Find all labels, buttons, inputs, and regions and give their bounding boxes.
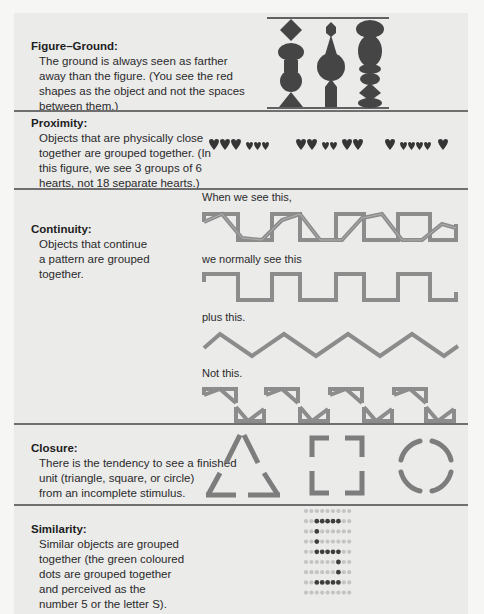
continuity-broken-fragments — [202, 385, 462, 423]
desc-line: Objects that are physically close — [39, 131, 211, 146]
dot — [304, 540, 308, 544]
dot — [331, 570, 335, 574]
dot — [347, 540, 351, 544]
dot — [326, 509, 330, 513]
continuity-caption-3: plus this. — [202, 311, 245, 323]
dot — [342, 591, 346, 595]
dot — [336, 540, 340, 544]
continuity-caption-2: we normally see this — [202, 253, 302, 265]
dot — [347, 509, 351, 513]
continuity-combined-pattern — [202, 210, 462, 244]
dot-highlighted — [325, 580, 330, 585]
heart-group-2 — [296, 139, 363, 150]
section-divider — [14, 188, 468, 190]
dot — [309, 580, 313, 584]
dot — [315, 509, 319, 513]
similarity-dot-grid — [303, 507, 353, 599]
dot — [309, 570, 313, 574]
desc-line: together are grouped together. (In — [39, 146, 211, 161]
section-divider — [14, 504, 468, 506]
continuity-caption-4: Not this. — [202, 367, 242, 379]
dot-highlighted — [314, 549, 319, 554]
dot — [336, 509, 340, 513]
dot — [342, 560, 346, 564]
dot — [342, 550, 346, 554]
dot — [320, 540, 324, 544]
dot-highlighted — [325, 519, 330, 524]
dot — [304, 591, 308, 595]
dot-highlighted — [336, 580, 341, 585]
dot — [320, 591, 324, 595]
desc-line: a pattern are grouped — [39, 252, 150, 267]
proximity-hearts-illustration — [209, 137, 449, 153]
section-divider — [14, 423, 468, 425]
dot — [326, 570, 330, 574]
dot — [304, 550, 308, 554]
dot — [336, 591, 340, 595]
dot — [304, 580, 308, 584]
dot — [326, 560, 330, 564]
dot — [347, 529, 351, 533]
dot — [331, 529, 335, 533]
dot — [331, 540, 335, 544]
dot — [326, 529, 330, 533]
dot — [342, 509, 346, 513]
dot — [320, 560, 324, 564]
closure-title: Closure: — [31, 442, 78, 454]
dot-highlighted — [331, 519, 336, 524]
desc-line: together (the green coloured — [39, 552, 184, 567]
proximity-title: Proximity: — [31, 117, 87, 129]
dot-highlighted — [314, 519, 319, 524]
continuity-zigzag — [202, 326, 462, 360]
dot — [304, 560, 308, 564]
dot-highlighted — [325, 549, 330, 554]
dot — [315, 570, 319, 574]
continuity-square-wave — [202, 270, 462, 304]
desc-line: Objects that continue — [39, 237, 150, 252]
dot — [342, 580, 346, 584]
dot — [309, 560, 313, 564]
fragment-top — [204, 389, 236, 403]
dot — [342, 519, 346, 523]
dot — [309, 550, 313, 554]
dot — [320, 570, 324, 574]
section-divider — [14, 110, 468, 112]
dot-highlighted — [314, 580, 319, 585]
dot-highlighted — [320, 549, 325, 554]
dot — [309, 591, 313, 595]
continuity-caption-1: When we see this, — [202, 191, 292, 203]
heart-group-1 — [209, 139, 269, 150]
dot — [331, 560, 335, 564]
desc-line: The ground is always seen as farther — [39, 54, 245, 69]
continuity-title: Continuity: — [31, 223, 92, 235]
dot-highlighted — [336, 519, 341, 524]
dot — [304, 570, 308, 574]
dot — [342, 570, 346, 574]
dot — [326, 540, 330, 544]
gestalt-principles-panel: Figure–Ground: The ground is always seen… — [14, 13, 468, 614]
dot — [331, 509, 335, 513]
proximity-description: Objects that are physically close togeth… — [39, 131, 211, 191]
dot — [347, 580, 351, 584]
dot — [309, 540, 313, 544]
closure-square — [309, 435, 369, 497]
dot-highlighted — [314, 529, 319, 534]
heart-group-3 — [385, 139, 448, 150]
desc-line: Similar objects are grouped — [39, 537, 184, 552]
dot — [309, 529, 313, 533]
dot-highlighted — [331, 549, 336, 554]
dot — [347, 591, 351, 595]
dot — [304, 519, 308, 523]
dot — [347, 550, 351, 554]
figure-ground-title: Figure–Ground: — [31, 40, 118, 52]
dot — [309, 509, 313, 513]
dot — [304, 529, 308, 533]
dot — [336, 529, 340, 533]
dot — [315, 560, 319, 564]
desc-line: this figure, we see 3 groups of 6 — [39, 161, 211, 176]
desc-line: shapes as the object and not the spaces — [39, 84, 245, 99]
dot — [342, 529, 346, 533]
dot-highlighted — [320, 580, 325, 585]
dot — [304, 509, 308, 513]
figure-ground-illustration — [267, 17, 397, 109]
